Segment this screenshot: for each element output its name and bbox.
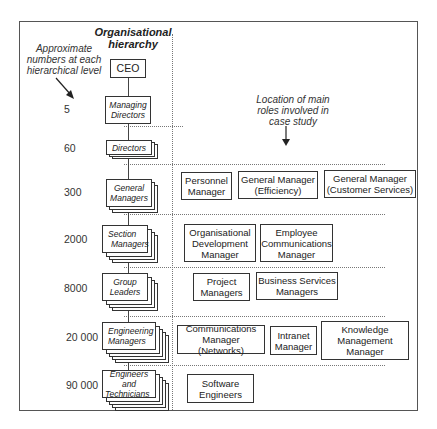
role-label-line: Organisational	[189, 227, 250, 238]
role-label-line: Manager	[275, 341, 313, 352]
left-note-line-1: Approximate	[24, 43, 104, 54]
role-label-line: General Manager	[241, 174, 315, 185]
role-label-line: Personnel	[185, 175, 228, 186]
role-label-line: Management	[337, 335, 392, 346]
level-ceo: CEO	[110, 59, 146, 78]
level-label-line: Engineers and	[105, 369, 153, 389]
left-note-arrow-icon	[50, 75, 80, 105]
title-line-1: Organisational	[88, 26, 178, 38]
role-label-line: Intranet	[277, 330, 309, 341]
level-label-line: Managers	[108, 336, 146, 346]
left-note-line-2: numbers at each	[24, 54, 104, 65]
role-employee-communications-manager: Employee Communications Manager	[260, 224, 333, 262]
role-organisational-development-manager: Organisational Development Manager	[184, 224, 256, 262]
role-label-line: Manager	[278, 249, 316, 260]
level-label-line: Managers	[110, 193, 148, 203]
role-label-line: Employee	[275, 227, 317, 238]
role-project-managers: Project Managers	[193, 273, 250, 301]
role-knowledge-management-manager: Knowledge Management Manager	[321, 321, 409, 360]
role-label-line: Manager	[201, 249, 239, 260]
level-label-line: Group	[113, 277, 137, 287]
role-label-line: Managers	[200, 287, 242, 298]
column-divider	[172, 34, 173, 410]
role-communications-manager-networks: Communications Manager (Networks)	[177, 325, 265, 354]
count-managing-directors: 5	[64, 103, 70, 115]
level-label-line: Leaders	[110, 287, 141, 297]
role-general-manager-customer-services: General Manager (Customer Services)	[324, 170, 416, 198]
level-general-managers: General Managers	[106, 179, 152, 207]
right-note-line-1: Location of main	[248, 94, 338, 105]
role-general-manager-efficiency: General Manager (Efficiency)	[238, 171, 318, 199]
level-group-leaders: Group Leaders	[102, 273, 148, 301]
role-label-line: Manager	[188, 186, 226, 197]
right-note-line-3: case study	[248, 116, 338, 127]
count-directors: 60	[64, 142, 76, 154]
count-engineering-managers: 20 000	[66, 331, 98, 343]
level-separator	[124, 365, 385, 366]
level-ceo-label: CEO	[117, 63, 140, 74]
level-label-line: Managers	[108, 239, 149, 249]
right-note-arrow-icon	[281, 126, 291, 148]
count-group-leaders: 8000	[64, 282, 87, 294]
role-personnel-manager: Personnel Manager	[181, 172, 232, 200]
count-section-managers: 2000	[64, 233, 87, 245]
level-engineers-technicians: Engineers and Technicians	[102, 370, 156, 398]
level-label-line: Engineering	[108, 326, 153, 336]
role-software-engineers: Software Engineers	[187, 374, 254, 403]
level-label-line: Technicians	[105, 389, 150, 399]
role-label-line: Business Services	[258, 275, 336, 286]
level-label-line: Directors	[112, 143, 146, 153]
level-separator	[124, 316, 385, 317]
count-engineers-technicians: 90 000	[66, 379, 98, 391]
role-label-line: Knowledge	[341, 324, 388, 335]
level-section-managers: Section Managers	[102, 225, 148, 253]
role-business-services-managers: Business Services Managers	[256, 272, 338, 300]
role-label-line: Communications	[261, 238, 332, 249]
role-label-line: Software	[202, 378, 240, 389]
role-label-line: Communications	[186, 323, 257, 334]
level-engineering-managers: Engineering Managers	[102, 322, 156, 350]
role-label-line: Development	[192, 238, 248, 249]
level-separator	[124, 267, 385, 268]
level-separator	[124, 214, 385, 215]
role-label-line: (Customer Services)	[327, 184, 414, 195]
level-label-line: General	[114, 183, 144, 193]
level-label-line: Managing	[109, 100, 146, 110]
role-label-line: Manager	[346, 346, 384, 357]
role-label-line: Engineers	[199, 389, 242, 400]
role-intranet-manager: Intranet Manager	[270, 326, 317, 355]
role-label-line: Manager (Networks)	[178, 334, 264, 356]
right-note-line-2: roles involved in	[248, 105, 338, 116]
role-label-line: (Efficiency)	[255, 185, 302, 196]
level-label-line: Section	[108, 229, 136, 239]
count-general-managers: 300	[64, 186, 82, 198]
level-separator	[124, 164, 385, 165]
role-label-line: General Manager	[333, 173, 407, 184]
right-note: Location of main roles involved in case …	[248, 94, 338, 127]
level-label-line: Directors	[111, 110, 145, 120]
level-directors: Directors	[106, 140, 152, 155]
role-label-line: Managers	[276, 286, 318, 297]
role-label-line: Project	[207, 276, 237, 287]
level-separator	[124, 126, 183, 127]
level-managing-directors: Managing Directors	[105, 96, 151, 124]
left-note: Approximate numbers at each hierarchical…	[24, 43, 104, 76]
